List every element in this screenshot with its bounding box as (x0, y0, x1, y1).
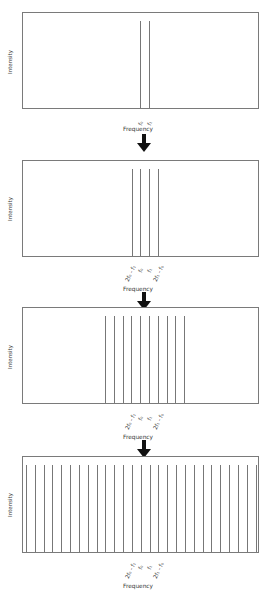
spectral-line (158, 169, 159, 256)
spectral-line (123, 316, 124, 403)
tick-2f1-f0: 2f₁ - f₀ (152, 412, 165, 430)
spectral-line (132, 465, 133, 552)
y-axis-label: Intensity (3, 13, 17, 110)
spectral-line (141, 465, 142, 552)
spectral-line (132, 169, 133, 256)
spectral-line (114, 316, 115, 403)
spectral-line (70, 465, 71, 552)
tick-2f0-f1: 2f₀ - f₁ (124, 264, 137, 282)
spectral-line (149, 21, 150, 108)
spectral-line (140, 21, 141, 108)
spectral-line (167, 316, 168, 403)
spectral-line (220, 465, 221, 552)
tick-f0: f₀ (137, 564, 144, 570)
spectral-line (44, 465, 45, 552)
spectral-line (79, 465, 80, 552)
y-axis-label: Intensity (3, 308, 17, 405)
tick-2f1-f0: 2f₁ - f₀ (152, 561, 165, 579)
spectral-line (184, 316, 185, 403)
spectral-line (35, 465, 36, 552)
spectral-line (247, 465, 248, 552)
tick-f1: f₁ (146, 415, 153, 421)
spectral-line (149, 169, 150, 256)
spectral-line (61, 465, 62, 552)
spectral-line (26, 465, 27, 552)
tick-2f1-f0: 2f₁ - f₀ (152, 264, 165, 282)
spectrum-plot-2 (22, 160, 259, 257)
spectral-line (114, 465, 115, 552)
spectral-line (158, 316, 159, 403)
tick-2f0-f1: 2f₀ - f₁ (124, 561, 137, 579)
tick-f0: f₀ (137, 415, 144, 421)
y-axis-label: Intensity (3, 160, 17, 257)
tick-f1: f₁ (146, 267, 153, 273)
x-axis-label: Frequency (0, 126, 276, 132)
spectral-line (123, 465, 124, 552)
spectral-line (176, 465, 177, 552)
y-axis-label: Intensity (3, 456, 17, 553)
tick-f1: f₁ (146, 564, 153, 570)
spectral-line (167, 465, 168, 552)
spectral-line (211, 465, 212, 552)
spectral-line (185, 465, 186, 552)
spectral-line (229, 465, 230, 552)
spectral-line (256, 465, 257, 552)
down-arrow-icon (137, 134, 151, 152)
spectral-line (88, 465, 89, 552)
spectral-line (194, 465, 195, 552)
spectral-line (105, 465, 106, 552)
spectral-line (238, 465, 239, 552)
spectral-line (140, 316, 141, 403)
spectrum-plot-3 (22, 307, 259, 404)
tick-f0: f₀ (137, 267, 144, 273)
spectral-line (175, 316, 176, 403)
tick-2f0-f1: 2f₀ - f₁ (124, 412, 137, 430)
spectral-line (150, 465, 151, 552)
spectral-line (97, 465, 98, 552)
spectral-line (149, 316, 150, 403)
spectral-line (203, 465, 204, 552)
x-axis-label: Frequency (0, 583, 276, 589)
spectral-line (140, 169, 141, 256)
spectrum-plot-4 (22, 456, 259, 553)
spectral-line (105, 316, 106, 403)
spectrum-plot-1 (22, 12, 259, 109)
spectral-line (131, 316, 132, 403)
spectral-line (52, 465, 53, 552)
spectral-line (158, 465, 159, 552)
